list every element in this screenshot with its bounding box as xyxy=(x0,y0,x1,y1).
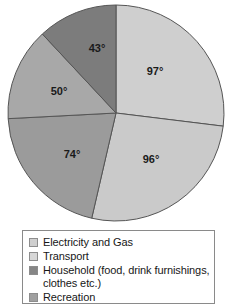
legend-label-household: Household (food, drink furnishings, clot… xyxy=(43,264,210,290)
pie-chart-svg: 97°96°74°50°43° xyxy=(0,0,235,228)
legend-item-household: Household (food, drink furnishings, clot… xyxy=(29,264,210,290)
chart-legend: Electricity and Gas Transport Household … xyxy=(22,230,215,304)
legend-item-electricity-and-gas: Electricity and Gas xyxy=(29,236,210,249)
pie-slice-label-43: 43° xyxy=(89,42,106,54)
pie-slice-label-74: 74° xyxy=(64,148,81,160)
legend-swatch-electricity-and-gas xyxy=(29,238,38,247)
legend-swatch-recreation xyxy=(29,293,38,302)
pie-slice-label-96: 96° xyxy=(143,153,160,165)
pie-chart-plot-area: 97°96°74°50°43° xyxy=(0,0,235,228)
legend-item-recreation: Recreation xyxy=(29,291,210,304)
legend-swatch-household xyxy=(29,266,38,275)
pie-slice-97 xyxy=(116,5,224,126)
pie-slice-label-50: 50° xyxy=(51,85,68,97)
pie-slices-group xyxy=(8,5,224,221)
legend-label-transport: Transport xyxy=(43,250,89,263)
pie-slice-label-97: 97° xyxy=(147,65,164,77)
legend-swatch-transport xyxy=(29,252,38,261)
legend-item-transport: Transport xyxy=(29,250,210,263)
legend-label-electricity-and-gas: Electricity and Gas xyxy=(43,236,133,249)
legend-label-recreation: Recreation xyxy=(43,291,95,304)
